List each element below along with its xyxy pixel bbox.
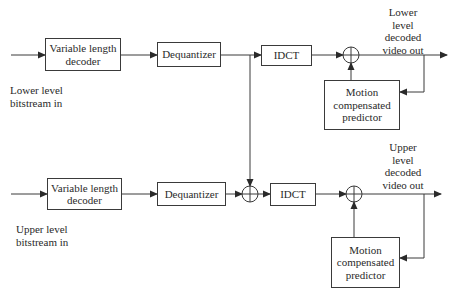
upper-input-label: Upper level bitstream in [16, 223, 68, 248]
upper-variable-length-decoder-block: Variable length decoder [47, 178, 122, 210]
upper-dequantizer-block: Dequantizer [157, 182, 226, 206]
lower-output-label-line3: decoded [382, 31, 423, 44]
upper-vld-label-line1: Variable length [51, 182, 118, 195]
upper-motion-compensated-predictor-block: Motion compensated predictor [331, 237, 400, 288]
lower-input-label-line1: Lower level [10, 84, 63, 97]
upper-mcp-label-line3: predictor [337, 269, 394, 282]
upper-output-label-line1: Upper [382, 141, 423, 154]
upper-input-label-line1: Upper level [16, 223, 68, 236]
lower-output-label: Lower level decoded video out [382, 6, 423, 56]
upper-mcp-label-line1: Motion [337, 244, 394, 257]
upper-idct-block: IDCT [270, 183, 316, 206]
upper-output-label-line3: decoded [382, 166, 423, 179]
lower-motion-compensated-predictor-block: Motion compensated predictor [324, 80, 400, 130]
lower-mcp-label-line3: predictor [333, 111, 390, 124]
upper-output-label: Upper level decoded video out [382, 141, 423, 191]
lower-dequantizer-block: Dequantizer [157, 42, 221, 67]
decoder-block-diagram: Variable length decoder Dequantizer IDCT… [0, 0, 457, 300]
lower-vld-label-line2: decoder [50, 55, 117, 68]
lower-feedback-line [400, 55, 424, 92]
lower-vld-label-line1: Variable length [50, 42, 117, 55]
upper-feedback-line [400, 194, 424, 258]
upper-mcp-label-line2: compensated [337, 256, 394, 269]
lower-input-label-line2: bitstream in [10, 97, 63, 110]
lower-variable-length-decoder-block: Variable length decoder [45, 38, 121, 71]
lower-output-label-line4: video out [382, 44, 423, 57]
upper-output-label-line2: level [382, 154, 423, 167]
lower-output-label-line1: Lower [382, 6, 423, 19]
lower-mcp-label-line1: Motion [333, 86, 390, 99]
upper-input-label-line2: bitstream in [16, 236, 68, 249]
upper-vld-label-line2: decoder [51, 194, 118, 207]
lower-idct-block: IDCT [261, 45, 312, 66]
lower-input-label: Lower level bitstream in [10, 84, 63, 109]
lower-output-label-line2: level [382, 19, 423, 32]
upper-output-label-line4: video out [382, 179, 423, 192]
lower-mcp-label-line2: compensated [333, 99, 390, 112]
